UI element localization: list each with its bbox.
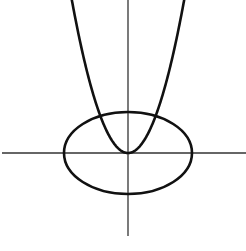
parabola-ellipse-diagram — [0, 0, 246, 251]
